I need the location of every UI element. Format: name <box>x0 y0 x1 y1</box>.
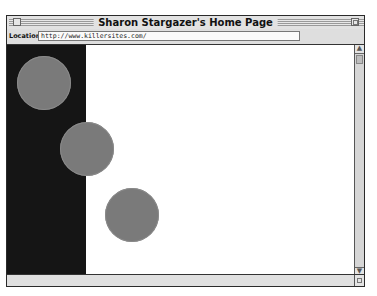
bottom-status-bar <box>7 274 364 286</box>
resize-grow-box-icon[interactable] <box>354 275 364 286</box>
page-content <box>7 45 355 276</box>
zoom-box-icon[interactable] <box>351 18 359 26</box>
browser-window: Sharon Stargazer's Home Page Location: h… <box>6 15 365 287</box>
close-box-icon[interactable] <box>13 18 21 26</box>
scroll-thumb[interactable] <box>356 55 363 64</box>
url-input[interactable]: http://www.killersites.com/ <box>38 31 300 41</box>
window-title: Sharon Stargazer's Home Page <box>93 16 278 29</box>
circle-1 <box>17 56 71 110</box>
circle-3 <box>105 188 159 242</box>
vertical-scrollbar[interactable]: ▲ ▼ <box>354 45 364 276</box>
scroll-up-arrow-icon[interactable]: ▲ <box>355 45 364 54</box>
title-bar[interactable]: Sharon Stargazer's Home Page <box>7 16 364 30</box>
location-bar: Location: http://www.killersites.com/ <box>7 29 364 45</box>
circle-2 <box>60 122 114 176</box>
